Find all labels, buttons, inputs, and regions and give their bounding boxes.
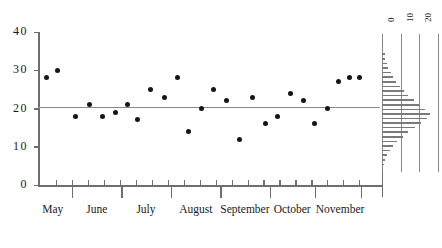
month-label-july: July [136, 203, 155, 215]
y-tick-mark [34, 70, 39, 72]
x-major-tick-mark [270, 186, 272, 198]
scatter-point [175, 75, 180, 80]
x-tick-mark [327, 180, 328, 185]
histogram-bar [382, 44, 383, 46]
x-tick-mark [263, 180, 264, 185]
x-tick-mark [279, 180, 280, 185]
histogram-bar [382, 53, 385, 55]
scatter-point [73, 114, 78, 119]
histogram-bar [382, 104, 419, 106]
x-major-tick-mark [121, 186, 123, 198]
scatter-point [100, 114, 105, 119]
histogram-gridline [438, 34, 439, 172]
x-tick-mark [72, 180, 73, 185]
y-tick-label: 10 [0, 139, 28, 154]
histogram-bar [382, 81, 396, 83]
x-tick-mark [104, 180, 105, 185]
scatter-point [135, 117, 140, 122]
scatter-point [162, 95, 167, 100]
y-tick-label: 20 [0, 101, 28, 116]
histogram-tick-label: 0 [386, 18, 396, 23]
scatter-point [325, 106, 330, 111]
histogram-bar [382, 136, 403, 138]
histogram-bar [382, 58, 385, 60]
x-tick-mark [56, 180, 57, 185]
x-axis-line [38, 185, 382, 187]
y-tick-mark [34, 108, 39, 110]
histogram-bar [382, 49, 383, 51]
y-tick-mark [34, 32, 39, 34]
chart-canvas: 010203040 MayJuneJulyAugustSeptemberOcto… [0, 0, 442, 248]
scatter-point [263, 121, 268, 126]
month-label-september: September [220, 203, 269, 215]
histogram-bar [382, 72, 391, 74]
scatter-point [288, 91, 293, 96]
histogram-gridline [419, 34, 420, 172]
x-major-tick-mark [315, 186, 317, 198]
histogram-bar [382, 168, 383, 170]
month-label-november: November [316, 203, 365, 215]
scatter-point [347, 75, 352, 80]
histogram-bar [382, 99, 414, 101]
scatter-point [55, 68, 60, 73]
scatter-point [357, 75, 362, 80]
histogram-bar [382, 90, 404, 92]
scatter-point [44, 75, 49, 80]
x-major-tick-mark [171, 186, 173, 198]
histogram-tick-label: 20 [423, 13, 433, 22]
histogram-bar [382, 141, 397, 143]
x-tick-mark [295, 180, 296, 185]
histogram-gridline [401, 34, 402, 172]
scatter-point [211, 87, 216, 92]
histogram-bar [382, 113, 430, 115]
x-tick-mark [359, 180, 360, 185]
histogram-bar [382, 159, 385, 161]
y-tick-label: 30 [0, 62, 28, 77]
month-label-august: August [179, 203, 212, 215]
x-tick-mark [184, 180, 185, 185]
histogram-bar [382, 150, 390, 152]
histogram-bar [382, 67, 388, 69]
x-tick-mark [311, 180, 312, 185]
y-tick-label: 0 [0, 177, 28, 192]
scatter-point [148, 87, 153, 92]
scatter-point [301, 98, 306, 103]
x-major-tick-mark [220, 186, 222, 198]
histogram-bar [382, 122, 421, 124]
month-label-october: October [274, 203, 311, 215]
scatter-point [113, 110, 118, 115]
scatter-point [250, 95, 255, 100]
x-tick-mark [343, 180, 344, 185]
histogram-bar [382, 154, 387, 156]
scatter-point [275, 114, 280, 119]
histogram-bar [382, 145, 393, 147]
x-tick-mark [232, 180, 233, 185]
scatter-point [186, 129, 191, 134]
x-tick-mark [216, 180, 217, 185]
month-label-june: June [86, 203, 107, 215]
scatter-point [224, 98, 229, 103]
x-major-tick-mark [72, 186, 74, 198]
y-tick-mark [34, 146, 39, 148]
x-tick-mark [168, 180, 169, 185]
histogram-bar [382, 40, 383, 42]
histogram-bar [382, 76, 393, 78]
histogram-bar [382, 95, 408, 97]
scatter-point [336, 79, 341, 84]
month-label-may: May [42, 203, 63, 215]
histogram-bar [382, 127, 415, 129]
histogram-bar [382, 86, 400, 88]
histogram-bar [382, 131, 408, 133]
x-tick-mark [152, 180, 153, 185]
x-tick-mark [136, 180, 137, 185]
x-major-tick-mark [361, 186, 363, 198]
x-tick-mark [248, 180, 249, 185]
histogram-bar [382, 118, 427, 120]
x-tick-mark [200, 180, 201, 185]
scatter-point [312, 121, 317, 126]
histogram-bar [382, 164, 384, 166]
histogram-bar [382, 109, 425, 111]
scatter-point [199, 106, 204, 111]
y-tick-label: 40 [0, 24, 28, 39]
histogram-tick-label: 10 [405, 13, 415, 22]
